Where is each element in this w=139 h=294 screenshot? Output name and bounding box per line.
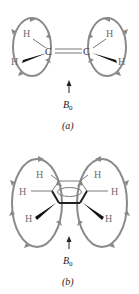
panel-a: C C H H H H B0 (a) <box>11 17 128 132</box>
bond-c-h-upper-right <box>93 39 106 48</box>
atom-hydrogen: H <box>106 28 113 39</box>
atom-hydrogen: H <box>23 28 30 39</box>
panel-label-a: (a) <box>62 120 74 132</box>
field-arrowhead-icon <box>67 236 72 242</box>
panel-b: H H H H H H B0 (b) <box>9 156 130 288</box>
atom-hydrogen: H <box>11 56 18 67</box>
current-loop-right-b <box>77 159 127 247</box>
wedge-bond-right <box>92 53 117 63</box>
atom-carbon-right: C <box>83 46 90 57</box>
atom-hydrogen: H <box>111 186 118 197</box>
atom-carbon-left: C <box>45 46 52 57</box>
atom-hydrogen: H <box>36 169 43 180</box>
field-arrowhead-icon <box>67 80 72 86</box>
atom-hydrogen: H <box>94 169 101 180</box>
field-label-b: B0 <box>63 255 73 268</box>
atom-hydrogen: H <box>19 186 26 197</box>
wedge-bond-left <box>22 53 47 63</box>
atom-hydrogen: H <box>118 56 125 67</box>
field-label-a: B0 <box>63 99 73 112</box>
wedge-bond-lower-left <box>35 203 56 220</box>
figure: C C H H H H B0 (a) <box>0 0 139 294</box>
wedge-bond-lower-right <box>83 203 104 220</box>
panel-label-b: (b) <box>62 276 74 288</box>
atom-hydrogen: H <box>105 213 112 224</box>
atom-hydrogen: H <box>25 213 32 224</box>
